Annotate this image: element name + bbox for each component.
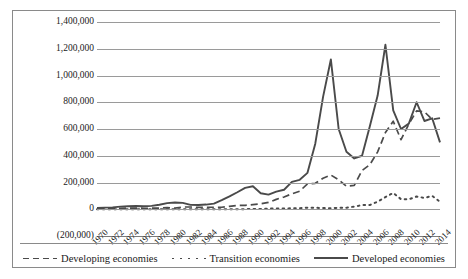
- x-axis-labels: 1970197219741976197819801982198419861988…: [0, 0, 468, 279]
- legend-line-swatch: [172, 257, 206, 260]
- chart-legend: Developing economiesTransition economies…: [12, 248, 456, 268]
- legend-item[interactable]: Developing economies: [23, 253, 158, 264]
- legend-label: Developing economies: [61, 253, 158, 264]
- chart-figure: 1,400,0001,200,0001,000,000800,000600,00…: [0, 0, 468, 279]
- legend-item[interactable]: Developed economies: [314, 253, 445, 264]
- legend-divider: [20, 243, 448, 244]
- x-axis-tick-label: 2014: [434, 228, 453, 247]
- legend-item[interactable]: Transition economies: [172, 253, 300, 264]
- legend-label: Developed economies: [352, 253, 445, 264]
- legend-line-swatch: [23, 257, 57, 260]
- legend-label: Transition economies: [210, 253, 300, 264]
- legend-line-swatch: [314, 257, 348, 260]
